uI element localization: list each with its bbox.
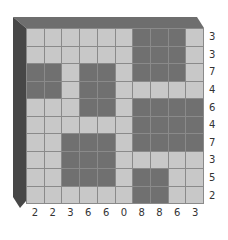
grid-cell[interactable] [151,29,168,46]
grid-cell[interactable] [169,152,186,169]
grid-cell[interactable] [62,169,79,186]
grid-cell[interactable] [27,117,44,134]
grid-cell[interactable] [186,152,203,169]
grid-cell[interactable] [27,152,44,169]
grid-cell[interactable] [169,99,186,116]
grid-cell[interactable] [27,29,44,46]
grid-cell[interactable] [186,29,203,46]
grid-cell[interactable] [80,117,97,134]
grid-cell[interactable] [62,29,79,46]
grid-cell[interactable] [151,152,168,169]
grid-cell[interactable] [133,82,150,99]
grid-cell[interactable] [169,117,186,134]
grid-cell[interactable] [151,64,168,81]
grid-cell[interactable] [186,187,203,204]
grid-cell[interactable] [169,169,186,186]
grid-cell[interactable] [116,187,133,204]
grid-cell[interactable] [116,29,133,46]
grid-cell[interactable] [151,117,168,134]
grid-cell[interactable] [169,187,186,204]
grid-cell[interactable] [45,134,62,151]
grid-cell[interactable] [62,152,79,169]
grid-cell[interactable] [98,29,115,46]
grid-cell[interactable] [80,47,97,64]
grid-cell[interactable] [98,117,115,134]
grid-cell[interactable] [151,47,168,64]
grid-cell[interactable] [98,82,115,99]
grid-cell[interactable] [116,134,133,151]
grid-cell[interactable] [186,47,203,64]
grid-cell[interactable] [151,99,168,116]
grid-cell[interactable] [62,134,79,151]
grid-cell[interactable] [186,134,203,151]
grid-cell[interactable] [80,134,97,151]
grid-cell[interactable] [45,99,62,116]
grid-cell[interactable] [45,152,62,169]
grid-cell[interactable] [116,99,133,116]
grid-cell[interactable] [80,187,97,204]
grid-cell[interactable] [45,47,62,64]
grid-cell[interactable] [62,117,79,134]
grid-cell[interactable] [133,169,150,186]
grid-cell[interactable] [62,47,79,64]
grid-cell[interactable] [45,187,62,204]
grid-cell[interactable] [27,134,44,151]
grid-cell[interactable] [169,134,186,151]
grid-cell[interactable] [27,169,44,186]
grid-cell[interactable] [27,99,44,116]
grid-cell[interactable] [151,134,168,151]
grid-cell[interactable] [169,64,186,81]
grid-cell[interactable] [133,29,150,46]
grid-cell[interactable] [80,169,97,186]
grid-cell[interactable] [133,64,150,81]
grid-cell[interactable] [151,187,168,204]
grid-cell[interactable] [62,187,79,204]
grid-cell[interactable] [169,82,186,99]
grid-cell[interactable] [133,152,150,169]
grid-cell[interactable] [98,169,115,186]
grid-cell[interactable] [45,82,62,99]
grid-cell[interactable] [98,99,115,116]
grid-cell[interactable] [151,82,168,99]
grid-cell[interactable] [27,187,44,204]
grid-cell[interactable] [62,82,79,99]
grid-cell[interactable] [80,64,97,81]
grid-cell[interactable] [98,64,115,81]
grid-cell[interactable] [98,134,115,151]
grid-cell[interactable] [27,64,44,81]
grid-cell[interactable] [169,47,186,64]
grid-cell[interactable] [116,169,133,186]
grid-cell[interactable] [186,64,203,81]
grid-cell[interactable] [133,117,150,134]
grid-cell[interactable] [116,152,133,169]
grid-cell[interactable] [116,64,133,81]
grid-cell[interactable] [186,99,203,116]
grid-cell[interactable] [62,99,79,116]
grid-cell[interactable] [98,187,115,204]
grid-cell[interactable] [151,169,168,186]
grid-cell[interactable] [45,29,62,46]
grid-cell[interactable] [45,117,62,134]
grid-cell[interactable] [116,117,133,134]
grid-cell[interactable] [45,169,62,186]
grid-cell[interactable] [133,99,150,116]
grid-cell[interactable] [98,47,115,64]
grid-cell[interactable] [80,152,97,169]
grid-cell[interactable] [116,47,133,64]
grid-cell[interactable] [186,117,203,134]
grid-cell[interactable] [98,152,115,169]
grid-cell[interactable] [80,29,97,46]
grid-cell[interactable] [27,82,44,99]
grid-cell[interactable] [133,134,150,151]
grid-cell[interactable] [62,64,79,81]
grid-cell[interactable] [133,187,150,204]
grid-cell[interactable] [169,29,186,46]
grid-cell[interactable] [80,82,97,99]
grid-cell[interactable] [27,47,44,64]
grid-cell[interactable] [186,82,203,99]
grid-cell[interactable] [133,47,150,64]
grid-cell[interactable] [45,64,62,81]
grid-cell[interactable] [186,169,203,186]
grid-cell[interactable] [116,82,133,99]
grid-cell[interactable] [80,99,97,116]
